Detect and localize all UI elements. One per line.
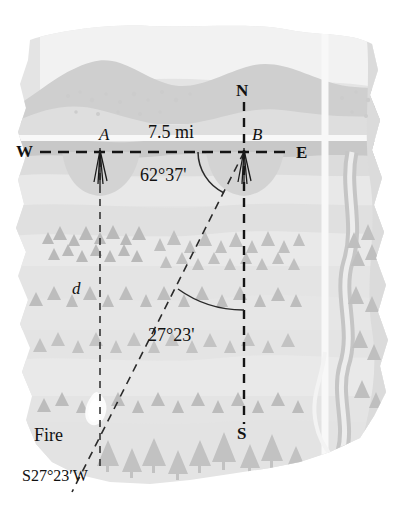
map-illustration [0,0,406,527]
label-angle-27-23: 27°23' [148,326,194,344]
label-east: E [296,144,307,161]
label-north: N [236,82,248,99]
label-point-a: A [99,126,109,143]
label-angle-62-37: 62°37' [140,166,186,184]
label-fire: Fire [34,426,63,444]
label-baseline-distance: 7.5 mi [148,123,194,141]
field-band-1 [10,174,400,206]
label-west: W [16,143,33,160]
label-south: S [237,425,246,442]
forest-fire-diagram: W E N S A B 7.5 mi 62°37' 27°23' d Fire … [0,0,406,527]
label-distance-d: d [72,280,81,297]
label-point-b: B [252,126,262,143]
label-bearing: S27°23′W [22,468,88,484]
